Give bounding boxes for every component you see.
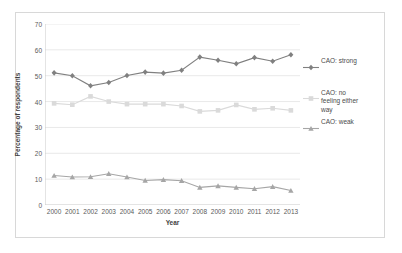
data-point-marker (270, 106, 275, 111)
legend-label: CAO: weak (321, 118, 354, 127)
data-point-marker (125, 102, 130, 107)
x-axis-title: Year (45, 219, 300, 226)
legend-label: CAO: no feeling either way (321, 89, 358, 115)
data-point-marker (52, 101, 57, 106)
legend-marker-square-icon (303, 89, 319, 98)
legend-entry-neutral[interactable]: CAO: no feeling either way (303, 89, 383, 115)
data-point-marker (309, 96, 314, 101)
y-axis-title: Percentage of respondents (13, 24, 23, 205)
y-tick-label: 60 (26, 46, 42, 53)
data-point-marker (106, 99, 111, 104)
plot-area (45, 24, 300, 205)
data-point-marker (179, 67, 184, 73)
data-point-marker (216, 108, 221, 113)
legend-label: CAO: strong (321, 57, 357, 66)
series-cao-strong (52, 52, 294, 89)
gridlines (45, 24, 300, 179)
data-point-marker (270, 58, 275, 64)
data-point-marker (198, 109, 203, 114)
y-tick-label: 0 (26, 202, 42, 209)
data-point-marker (52, 70, 57, 76)
data-point-marker (197, 54, 202, 60)
data-point-marker (88, 83, 93, 89)
series-line (54, 55, 291, 86)
series-layer (51, 52, 293, 193)
data-point-marker (124, 73, 129, 79)
y-tick-label: 20 (26, 150, 42, 157)
data-point-marker (288, 52, 293, 58)
data-point-marker (161, 102, 166, 107)
legend-entry-weak[interactable]: CAO: weak (303, 118, 383, 128)
data-point-marker (70, 73, 75, 79)
chart-figure: 70 60 50 40 30 20 10 0 20002001200220032… (0, 0, 402, 253)
series-cao-no-feeling-either-way (52, 94, 293, 114)
x-tick-label: 2013 (279, 207, 303, 216)
axis-lines (45, 24, 300, 205)
y-tick-label: 30 (26, 124, 42, 131)
data-point-marker (216, 57, 221, 63)
data-point-marker (106, 80, 111, 86)
data-point-marker (143, 69, 148, 75)
y-tick-label: 70 (26, 21, 42, 28)
plot-svg (45, 24, 300, 205)
data-point-marker (289, 108, 294, 113)
data-point-marker (309, 64, 314, 70)
y-axis-tick-labels: 70 60 50 40 30 20 10 0 (24, 24, 42, 205)
chart-legend: CAO: strong CAO: no feeling either way C… (303, 57, 383, 128)
data-point-marker (252, 55, 257, 61)
legend-marker-diamond-icon (303, 58, 319, 67)
data-point-marker (234, 103, 239, 108)
y-tick-label: 40 (26, 98, 42, 105)
data-point-marker (179, 104, 184, 109)
data-point-marker (234, 61, 239, 67)
data-point-marker (252, 107, 257, 112)
data-point-marker (143, 102, 148, 107)
legend-marker-triangle-icon (303, 119, 319, 128)
y-tick-label: 10 (26, 176, 42, 183)
data-point-marker (70, 102, 75, 107)
y-tick-label: 50 (26, 72, 42, 79)
series-cao-weak (51, 171, 293, 193)
data-point-marker (161, 70, 166, 76)
legend-entry-strong[interactable]: CAO: strong (303, 57, 383, 67)
data-point-marker (88, 94, 93, 99)
